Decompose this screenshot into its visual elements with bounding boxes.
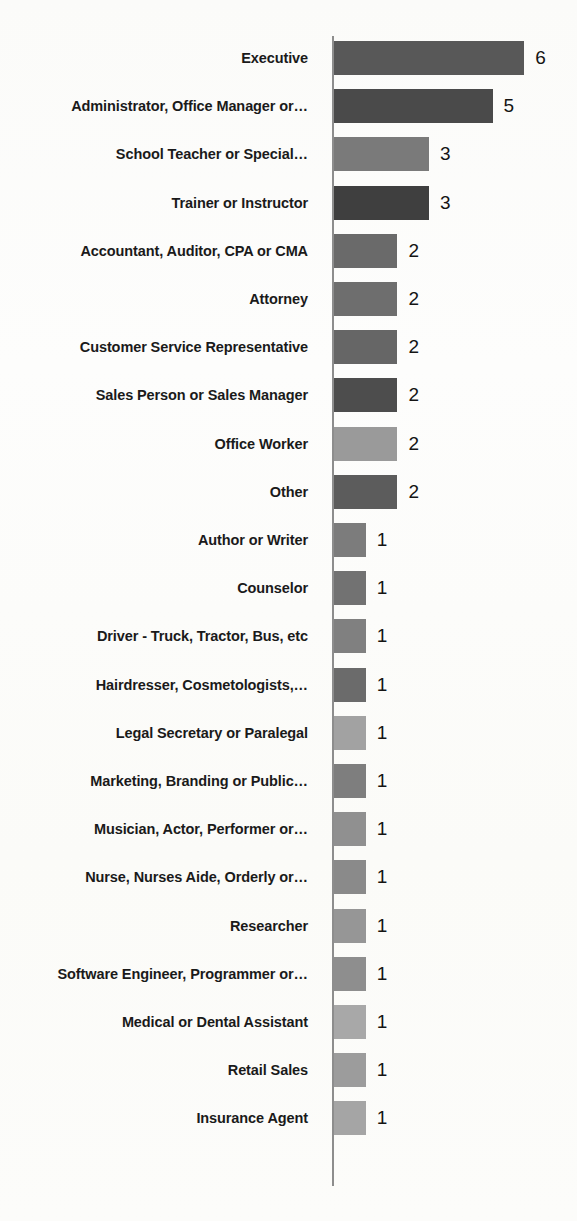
bar-row: Nurse, Nurses Aide, Orderly or…1 xyxy=(0,860,577,894)
bar-category-label: Driver - Truck, Tractor, Bus, etc xyxy=(0,619,320,653)
bar-value-label: 2 xyxy=(408,378,419,412)
bar-category-label: Retail Sales xyxy=(0,1053,320,1087)
bar-category-label: Researcher xyxy=(0,909,320,943)
bar xyxy=(334,330,397,364)
bar-value-label: 3 xyxy=(440,186,451,220)
bar-row: Hairdresser, Cosmetologists,…1 xyxy=(0,668,577,702)
bar-row: Insurance Agent1 xyxy=(0,1101,577,1135)
bar-value-label: 1 xyxy=(377,716,388,750)
bar-value-label: 1 xyxy=(377,1005,388,1039)
bar-category-label: Customer Service Representative xyxy=(0,330,320,364)
bar xyxy=(334,1053,366,1087)
bar xyxy=(334,186,429,220)
bar-category-label: Executive xyxy=(0,41,320,75)
bar-value-label: 2 xyxy=(408,427,419,461)
bar-chart: Executive6Administrator, Office Manager … xyxy=(0,0,577,1221)
bar-row: Administrator, Office Manager or…5 xyxy=(0,89,577,123)
bar-category-label: Insurance Agent xyxy=(0,1101,320,1135)
bar-value-label: 6 xyxy=(535,41,546,75)
bar-row: School Teacher or Special…3 xyxy=(0,137,577,171)
bar-value-label: 1 xyxy=(377,909,388,943)
bar xyxy=(334,234,397,268)
bar-row: Sales Person or Sales Manager2 xyxy=(0,378,577,412)
bar xyxy=(334,137,429,171)
bar-category-label: Nurse, Nurses Aide, Orderly or… xyxy=(0,860,320,894)
bar xyxy=(334,41,524,75)
plot-area: Executive6Administrator, Office Manager … xyxy=(0,0,577,1221)
bar-row: Musician, Actor, Performer or…1 xyxy=(0,812,577,846)
bar xyxy=(334,764,366,798)
bar-category-label: Attorney xyxy=(0,282,320,316)
bar xyxy=(334,89,493,123)
bar-category-label: Other xyxy=(0,475,320,509)
bar-row: Software Engineer, Programmer or…1 xyxy=(0,957,577,991)
bar-category-label: Musician, Actor, Performer or… xyxy=(0,812,320,846)
bar xyxy=(334,619,366,653)
bar-category-label: Administrator, Office Manager or… xyxy=(0,89,320,123)
bar-value-label: 1 xyxy=(377,571,388,605)
bar-value-label: 1 xyxy=(377,860,388,894)
bar-value-label: 1 xyxy=(377,957,388,991)
bar-value-label: 3 xyxy=(440,137,451,171)
bar-category-label: Legal Secretary or Paralegal xyxy=(0,716,320,750)
bar-value-label: 2 xyxy=(408,234,419,268)
bar xyxy=(334,860,366,894)
bar-category-label: Hairdresser, Cosmetologists,… xyxy=(0,668,320,702)
bar-category-label: Marketing, Branding or Public… xyxy=(0,764,320,798)
bar xyxy=(334,957,366,991)
bar-row: Author or Writer1 xyxy=(0,523,577,557)
bar-row: Counselor1 xyxy=(0,571,577,605)
bar-value-label: 2 xyxy=(408,330,419,364)
bar-row: Legal Secretary or Paralegal1 xyxy=(0,716,577,750)
bar xyxy=(334,716,366,750)
bar-row: Retail Sales1 xyxy=(0,1053,577,1087)
bar-row: Customer Service Representative2 xyxy=(0,330,577,364)
bar xyxy=(334,475,397,509)
bar-value-label: 1 xyxy=(377,619,388,653)
bar-category-label: Medical or Dental Assistant xyxy=(0,1005,320,1039)
bar-value-label: 2 xyxy=(408,475,419,509)
bar xyxy=(334,1101,366,1135)
bar-category-label: Trainer or Instructor xyxy=(0,186,320,220)
bar xyxy=(334,812,366,846)
bar-row: Trainer or Instructor3 xyxy=(0,186,577,220)
bar-category-label: Software Engineer, Programmer or… xyxy=(0,957,320,991)
bar-category-label: Author or Writer xyxy=(0,523,320,557)
bar-row: Accountant, Auditor, CPA or CMA2 xyxy=(0,234,577,268)
bar-row: Marketing, Branding or Public…1 xyxy=(0,764,577,798)
bar-value-label: 1 xyxy=(377,812,388,846)
bar-category-label: School Teacher or Special… xyxy=(0,137,320,171)
bar xyxy=(334,282,397,316)
bar-value-label: 1 xyxy=(377,668,388,702)
bar-row: Medical or Dental Assistant1 xyxy=(0,1005,577,1039)
bar xyxy=(334,427,397,461)
bar-row: Researcher1 xyxy=(0,909,577,943)
bar-category-label: Accountant, Auditor, CPA or CMA xyxy=(0,234,320,268)
bar-value-label: 1 xyxy=(377,764,388,798)
bar xyxy=(334,571,366,605)
bar-row: Driver - Truck, Tractor, Bus, etc1 xyxy=(0,619,577,653)
bar-value-label: 1 xyxy=(377,1101,388,1135)
bar-value-label: 5 xyxy=(504,89,515,123)
bar-value-label: 2 xyxy=(408,282,419,316)
bar-category-label: Office Worker xyxy=(0,427,320,461)
bar-row: Executive6 xyxy=(0,41,577,75)
bar xyxy=(334,668,366,702)
bar-value-label: 1 xyxy=(377,1053,388,1087)
bar-category-label: Sales Person or Sales Manager xyxy=(0,378,320,412)
bar-row: Attorney2 xyxy=(0,282,577,316)
bar-row: Other2 xyxy=(0,475,577,509)
bar-row: Office Worker2 xyxy=(0,427,577,461)
bar xyxy=(334,909,366,943)
bar-category-label: Counselor xyxy=(0,571,320,605)
bar xyxy=(334,1005,366,1039)
bar-value-label: 1 xyxy=(377,523,388,557)
bar xyxy=(334,523,366,557)
bar xyxy=(334,378,397,412)
